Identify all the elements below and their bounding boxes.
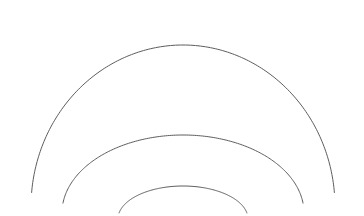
figure-canvas xyxy=(0,0,364,216)
figure-background xyxy=(0,0,364,216)
arc-diagram xyxy=(0,0,364,216)
